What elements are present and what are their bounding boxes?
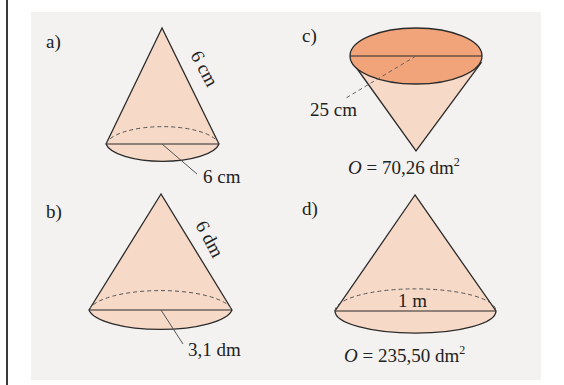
radius-label-b: 3,1 dm: [188, 339, 241, 360]
cones-diagram: a) 6 cm 6 cm b) 6 dm 3,1 dm c) 25 cm O =…: [0, 0, 564, 385]
cone-c: c) 25 cm O = 70,26 dm2: [302, 25, 482, 178]
figure-label-c: c): [302, 25, 317, 47]
radius-label-c: 25 cm: [310, 99, 357, 120]
cone-b: b) 6 dm 3,1 dm: [46, 194, 241, 360]
cone-a: a) 6 cm 6 cm: [46, 28, 241, 187]
diameter-label-a: 6 cm: [203, 166, 241, 187]
slant-label-a: 6 cm: [186, 47, 222, 90]
figure-label-a: a): [46, 31, 61, 53]
figure-label-b: b): [46, 201, 62, 223]
figure-label-d: d): [302, 198, 318, 220]
surface-area-d: O = 235,50 dm2: [344, 343, 465, 366]
surface-area-c: O = 70,26 dm2: [348, 155, 460, 178]
cone-d: d) 1 m O = 235,50 dm2: [302, 195, 496, 366]
diameter-label-d: 1 m: [398, 290, 427, 311]
